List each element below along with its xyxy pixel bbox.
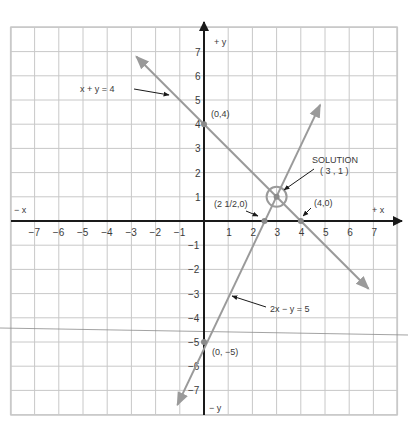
y-tick-label: −2 xyxy=(188,264,200,275)
x-tick-label: 7 xyxy=(371,227,377,238)
x-tick-label: −5 xyxy=(77,227,89,238)
y-tick-label: −4 xyxy=(188,313,200,324)
y-tick-label: −1 xyxy=(188,240,200,251)
y-neg-label: − y xyxy=(209,403,222,413)
x-tick-label: 5 xyxy=(323,227,329,238)
y-tick-label: 7 xyxy=(195,47,201,58)
y-tick-label: 3 xyxy=(195,143,201,154)
point-label-4-0: (4,0) xyxy=(314,198,333,208)
point-label-2half-0: (2 1/2,0) xyxy=(214,199,248,209)
intercept-point-marker xyxy=(298,218,304,224)
y-tick-label: 1 xyxy=(195,192,201,203)
linear-system-graph: −7−6−5−4−3−2−112345677654321−1−2−3−4−5−6… xyxy=(0,0,408,428)
point-label-0-4: (0,4) xyxy=(211,109,230,119)
intercept-point-marker xyxy=(201,339,207,345)
x-tick-label: 4 xyxy=(299,227,305,238)
x-tick-label: −4 xyxy=(101,227,113,238)
y-tick-label: −7 xyxy=(188,385,200,396)
equation-label-x-plus-y: x + y = 4 xyxy=(80,84,115,94)
x-tick-label: 3 xyxy=(275,227,281,238)
pointer-arrow-4-0 xyxy=(303,208,311,216)
x-pos-label: + x xyxy=(372,205,385,215)
x-tick-label: −1 xyxy=(174,227,186,238)
x-tick-label: 6 xyxy=(347,227,353,238)
y-tick-label: 6 xyxy=(195,71,201,82)
y-tick-label: 2 xyxy=(195,168,201,179)
solution-title: SOLUTION xyxy=(312,155,358,165)
x-tick-label: 1 xyxy=(226,227,232,238)
solution-point-marker xyxy=(274,194,280,200)
point-label-0-neg5: (0, −5) xyxy=(212,347,238,357)
x-tick-label: −6 xyxy=(53,227,65,238)
y-pos-label: + y xyxy=(214,37,227,47)
x-tick-label: −2 xyxy=(150,227,162,238)
pointer-arrow-2x-minus-y xyxy=(232,296,266,307)
x-neg-label: − x xyxy=(14,205,27,215)
intercept-point-marker xyxy=(262,218,268,224)
x-tick-label: −3 xyxy=(125,227,137,238)
axes xyxy=(11,22,402,415)
pointer-arrow-x-plus-y xyxy=(134,89,169,95)
y-tick-label: 5 xyxy=(195,95,201,106)
x-tick-label: −7 xyxy=(29,227,41,238)
solution-coords: ( 3 , 1 ) xyxy=(320,166,349,176)
equation-label-2x-minus-y: 2x − y = 5 xyxy=(270,304,310,314)
intercept-point-marker xyxy=(201,121,207,127)
graph-canvas: −7−6−5−4−3−2−112345677654321−1−2−3−4−5−6… xyxy=(0,0,408,428)
y-tick-label: −3 xyxy=(188,289,200,300)
x-tick-label: 2 xyxy=(250,227,256,238)
y-tick-label: −5 xyxy=(188,337,200,348)
